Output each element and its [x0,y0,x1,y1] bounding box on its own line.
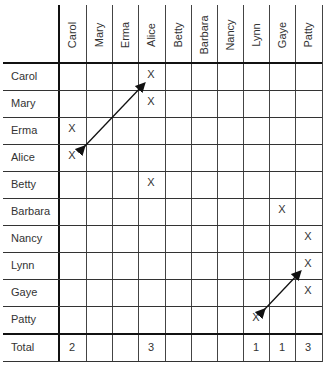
arrow-lynn-patty [264,272,300,310]
arrow-carol-alice [84,84,144,147]
mutual-choice-arrows [0,0,329,367]
